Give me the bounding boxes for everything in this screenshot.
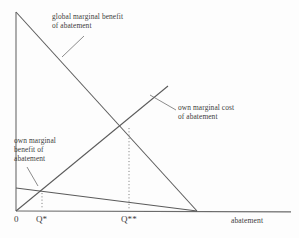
own-mb-leader-line xyxy=(27,167,38,186)
x-axis-label: abatement xyxy=(231,216,263,225)
global-marginal-benefit-line xyxy=(16,12,197,211)
own-mc-leader-line xyxy=(150,95,176,110)
x-axis xyxy=(16,211,291,212)
annotation-own-marginal-benefit: own marginal benefit of abatement xyxy=(14,136,56,163)
figure-canvas: global marginal benefit of abatement own… xyxy=(0,0,299,238)
annotation-global-marginal-benefit: global marginal benefit of abatement xyxy=(52,12,123,30)
annotation-own-marginal-cost: own marginal cost of abatement xyxy=(178,103,234,121)
own-marginal-benefit-line xyxy=(16,188,197,211)
global-mb-leader-line xyxy=(62,36,84,57)
abatement-diagram xyxy=(0,0,299,238)
axis-tick-q-star-star: Q** xyxy=(121,214,137,225)
axis-tick-q-star: Q* xyxy=(36,214,47,225)
axis-tick-origin: 0 xyxy=(14,214,19,225)
